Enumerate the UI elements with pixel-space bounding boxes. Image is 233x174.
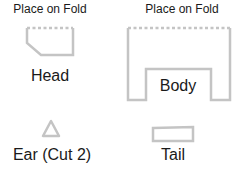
ear-piece <box>43 121 59 136</box>
body-label: Body <box>138 77 218 95</box>
ear-label: Ear (Cut 2) <box>0 146 104 164</box>
tail-label: Tail <box>133 146 213 164</box>
head-piece <box>27 28 73 55</box>
head-outline <box>27 28 73 55</box>
head-label: Head <box>10 67 90 85</box>
head-fold-label: Place on Fold <box>4 2 96 16</box>
tail-piece <box>153 127 193 141</box>
body-fold-label: Place on Fold <box>136 2 228 16</box>
